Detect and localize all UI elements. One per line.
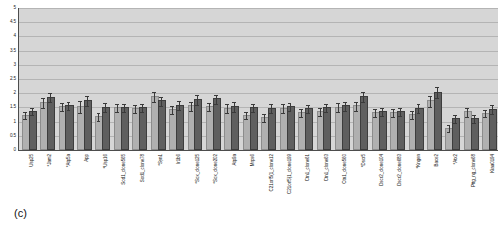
bar-group: [56, 8, 74, 150]
x-tick-label: *Sox_clone125: [196, 154, 201, 184]
error-bar-cap: [78, 113, 82, 114]
bar: [176, 105, 184, 150]
x-tick-label: *Atp5a: [67, 154, 72, 167]
bar-group: [387, 8, 405, 150]
error-bar-cap: [410, 111, 414, 112]
error-bar-cap: [103, 103, 107, 104]
error-bar-cap: [140, 104, 144, 105]
y-tick-label: 2.5: [10, 77, 16, 82]
error-bar-cap: [115, 104, 119, 105]
error-bar-cap: [232, 102, 236, 103]
x-tick-label: *Atx2: [454, 154, 459, 165]
error-bar-cap: [78, 101, 82, 102]
bar: [250, 107, 258, 150]
bar: [213, 98, 221, 150]
x-tick-label: Mrps6: [251, 154, 256, 166]
error-bar-cap: [354, 111, 358, 112]
error-bar-cap: [324, 112, 328, 113]
error-bar-cap: [251, 112, 255, 113]
error-bar-cap: [453, 123, 457, 124]
error-bar-cap: [361, 102, 365, 103]
error-bar-cap: [23, 119, 27, 120]
x-axis-line: [18, 150, 498, 151]
x-tick-label: Dscr2_clone683: [398, 154, 403, 186]
error-bar-cap: [306, 105, 310, 106]
x-tick-label: Pttg_ng_clone68: [472, 154, 477, 187]
error-bar-cap: [435, 98, 439, 99]
error-bar-cap: [324, 104, 328, 105]
error-bar-cap: [103, 112, 107, 113]
error-bar-cap: [244, 119, 248, 120]
error-bar-cap: [398, 108, 402, 109]
x-tick-label: Dscr2_clone104: [380, 154, 385, 186]
bar: [305, 108, 313, 150]
error-bar-cap: [269, 113, 273, 114]
x-tick-label: *Sox_clone202: [214, 154, 219, 184]
bar-group: [369, 8, 387, 150]
error-bar-cap: [207, 111, 211, 112]
error-bar-cap: [435, 87, 439, 88]
error-bar-cap: [41, 98, 45, 99]
error-bar-cap: [483, 110, 487, 111]
bar-group: [240, 8, 258, 150]
error-bar-cap: [428, 107, 432, 108]
bar-group: [480, 8, 498, 150]
bar: [287, 106, 295, 150]
error-bar-cap: [262, 114, 266, 115]
error-bar-cap: [380, 116, 384, 117]
error-bar-cap: [343, 111, 347, 112]
error-bar-cap: [244, 112, 248, 113]
error-bar-cap: [140, 112, 144, 113]
error-bar-cap: [225, 113, 229, 114]
error-bar-cap: [67, 102, 71, 103]
error-bar-cap: [30, 115, 34, 116]
error-bar-cap: [490, 105, 494, 106]
bar-group: [443, 8, 461, 150]
error-bar-cap: [262, 122, 266, 123]
error-bar-cap: [391, 109, 395, 110]
error-bar-cap: [472, 115, 476, 116]
bar-group: [130, 8, 148, 150]
y-tick-label: 2: [14, 91, 16, 96]
error-bar-cap: [373, 117, 377, 118]
error-bar-cap: [251, 104, 255, 105]
error-bar-cap: [361, 92, 365, 93]
error-bar-cap: [214, 104, 218, 105]
error-bar-cap: [354, 102, 358, 103]
error-bar-cap: [30, 108, 34, 109]
error-bar-cap: [465, 108, 469, 109]
error-bar-cap: [85, 106, 89, 107]
x-tick-label: C21orf5(1_clone12: [270, 154, 275, 191]
y-tick-label: 3.5: [10, 48, 16, 53]
bar: [121, 107, 129, 150]
error-bar-cap: [170, 114, 174, 115]
bar-group: [295, 8, 313, 150]
bar-group: [111, 8, 129, 150]
error-bar-cap: [122, 104, 126, 105]
x-tick-label: App: [85, 154, 90, 162]
error-bar-cap: [177, 110, 181, 111]
error-bar-cap: [67, 110, 71, 111]
bar-group: [93, 8, 111, 150]
error-bar-cap: [133, 105, 137, 106]
error-bar-cap: [306, 113, 310, 114]
bar-group: [424, 8, 442, 150]
error-bar-cap: [336, 103, 340, 104]
x-tick-label: *Usp16: [104, 154, 109, 168]
bar-group: [461, 8, 479, 150]
x-tick-label: Ctn1_clone61: [306, 154, 311, 181]
error-bar-cap: [391, 117, 395, 118]
error-bar-cap: [336, 112, 340, 113]
bar-group: [19, 8, 37, 150]
x-tick-label: Kiaa0194: [491, 154, 496, 173]
error-bar-cap: [417, 113, 421, 114]
error-bar-cap: [189, 111, 193, 112]
error-bar-cap: [189, 102, 193, 103]
bar: [231, 106, 239, 150]
bar-group: [277, 8, 295, 150]
y-tick-label: 0.5: [10, 134, 16, 139]
error-bar-cap: [170, 106, 174, 107]
error-bar-cap: [214, 95, 218, 96]
bar-group: [74, 8, 92, 150]
error-bar-cap: [398, 116, 402, 117]
